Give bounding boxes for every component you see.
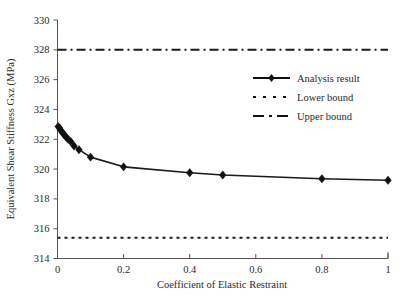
data-point-marker bbox=[219, 171, 226, 179]
x-tick-label: 0.8 bbox=[315, 264, 328, 275]
y-tick-label: 328 bbox=[34, 44, 50, 55]
y-tick-label: 316 bbox=[34, 223, 50, 234]
y-axis-title: Equivalent Shear Stiffness Gxz (MPa) bbox=[5, 58, 17, 219]
x-tick-label: 1 bbox=[385, 264, 390, 275]
x-tick-label: 0 bbox=[55, 264, 60, 275]
analysis-result-markers bbox=[55, 122, 392, 184]
data-point-marker bbox=[87, 153, 94, 161]
legend-item-analysis-result[interactable]: Analysis result bbox=[253, 73, 360, 84]
y-tick-label: 314 bbox=[34, 253, 51, 264]
data-point-marker bbox=[319, 175, 326, 183]
x-axis-title: Coefficient of Elastic Restraint bbox=[157, 279, 287, 290]
y-tick-label: 324 bbox=[34, 104, 51, 115]
x-tick-label: 0.2 bbox=[117, 264, 130, 275]
data-point-marker bbox=[186, 169, 193, 177]
x-tick-label: 0.6 bbox=[249, 264, 262, 275]
data-point-marker bbox=[385, 176, 392, 184]
legend: Analysis result Lower bound Upper bound bbox=[253, 73, 360, 122]
legend-item-lower-bound[interactable]: Lower bound bbox=[253, 92, 354, 103]
y-tick-label: 320 bbox=[34, 164, 50, 175]
chart-svg: 314316318320322324326328330 00.20.40.60.… bbox=[0, 0, 401, 304]
legend-label-analysis-result: Analysis result bbox=[297, 73, 360, 84]
legend-item-upper-bound[interactable]: Upper bound bbox=[253, 111, 353, 122]
legend-diamond-icon bbox=[269, 74, 275, 82]
axes bbox=[58, 20, 389, 259]
data-point-marker bbox=[120, 163, 127, 171]
y-tick-label: 330 bbox=[34, 15, 50, 26]
y-axis-ticks: 314316318320322324326328330 bbox=[34, 15, 58, 265]
x-tick-label: 0.4 bbox=[183, 264, 197, 275]
y-tick-label: 318 bbox=[34, 193, 50, 204]
y-tick-label: 326 bbox=[34, 74, 50, 85]
legend-label-lower-bound: Lower bound bbox=[297, 92, 354, 103]
x-axis-ticks: 00.20.40.60.81 bbox=[55, 254, 391, 275]
chart-figure: 314316318320322324326328330 00.20.40.60.… bbox=[0, 0, 401, 304]
legend-label-upper-bound: Upper bound bbox=[297, 111, 353, 122]
y-tick-label: 322 bbox=[34, 134, 50, 145]
